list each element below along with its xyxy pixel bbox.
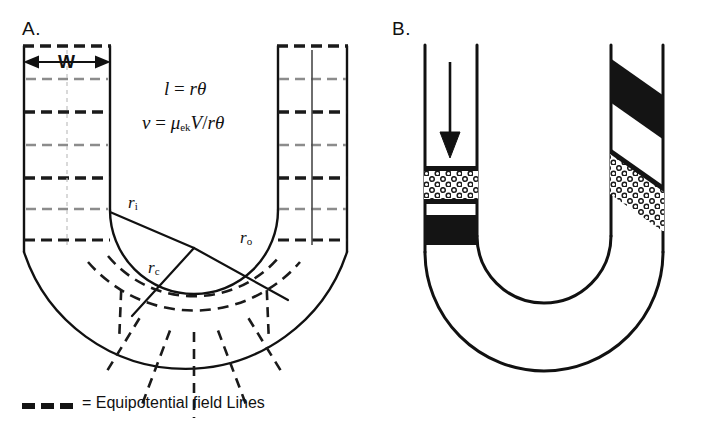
- sample-band-black-inlet: [424, 215, 478, 245]
- panel-a-radius-lines: [110, 212, 288, 316]
- r-outer-subscript: o: [247, 235, 253, 247]
- panel-label-b: B.: [392, 18, 411, 40]
- eq2-rtheta: rθ: [207, 112, 224, 133]
- panel-label-a: A.: [22, 18, 41, 40]
- r-center-symbol: r: [148, 258, 155, 277]
- r-center-subscript: c: [155, 265, 160, 277]
- figure-root: A. B. W l = rθ ν = μekV/rθ ri rc ro = Eq…: [0, 0, 706, 434]
- eq2-voltage: V: [191, 112, 203, 133]
- equipotential-lines-left-arm: [23, 46, 111, 245]
- legend: = Equipotential field Lines: [20, 394, 265, 412]
- sample-band-stippled-inlet: [424, 170, 478, 200]
- eq2-lhs: ν: [142, 112, 150, 133]
- eq2-mu-subscript: ek: [180, 121, 190, 133]
- eq1-rhs: rθ: [190, 78, 207, 99]
- width-marker-label: W: [58, 52, 75, 73]
- radius-label-inner: ri: [128, 193, 138, 213]
- band-edge-top: [424, 166, 478, 171]
- radius-label-center: rc: [148, 258, 160, 278]
- equipotential-concentric-arcs: [88, 256, 300, 311]
- flow-direction-arrow: [440, 62, 460, 158]
- eq1-equals: =: [174, 78, 185, 99]
- legend-label: = Equipotential field Lines: [82, 394, 265, 412]
- r-inner-symbol: r: [128, 193, 135, 212]
- eq2-mu: μ: [171, 112, 181, 133]
- eq1-lhs: l: [164, 78, 169, 99]
- band-edge-bottom: [424, 199, 478, 204]
- r-inner-subscript: i: [135, 200, 138, 212]
- equipotential-lines-right-arm: [277, 46, 348, 245]
- panel-a-drawing: [0, 0, 706, 434]
- radius-label-outer: ro: [240, 228, 252, 248]
- sample-band-black-outlet: [610, 58, 664, 140]
- r-outer-symbol: r: [240, 228, 247, 247]
- sample-band-stippled-outlet: [610, 152, 664, 232]
- radius-line-inner: [110, 212, 194, 248]
- arc-2: [88, 262, 300, 311]
- equation-arc-length: l = rθ: [164, 78, 206, 100]
- eq2-equals: =: [155, 112, 166, 133]
- equation-velocity: ν = μekV/rθ: [142, 112, 224, 134]
- arc-1: [108, 256, 280, 296]
